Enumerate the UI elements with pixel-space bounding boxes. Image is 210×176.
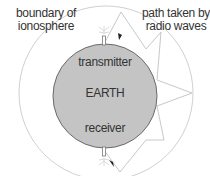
receiver-antenna-icon <box>99 147 109 166</box>
path-label: path taken by radio waves <box>136 7 210 33</box>
transmitter-label: transmitter <box>70 56 140 69</box>
earth-label: EARTH <box>70 87 140 100</box>
transmitter-antenna-icon <box>99 26 109 45</box>
ionosphere-label: boundary of ionosphere <box>6 7 86 33</box>
ionosphere-label-line2: ionosphere <box>6 20 86 33</box>
receiver-label: receiver <box>70 122 140 135</box>
path-label-line2: radio waves <box>136 20 210 33</box>
arrow-up-icon <box>118 33 122 40</box>
